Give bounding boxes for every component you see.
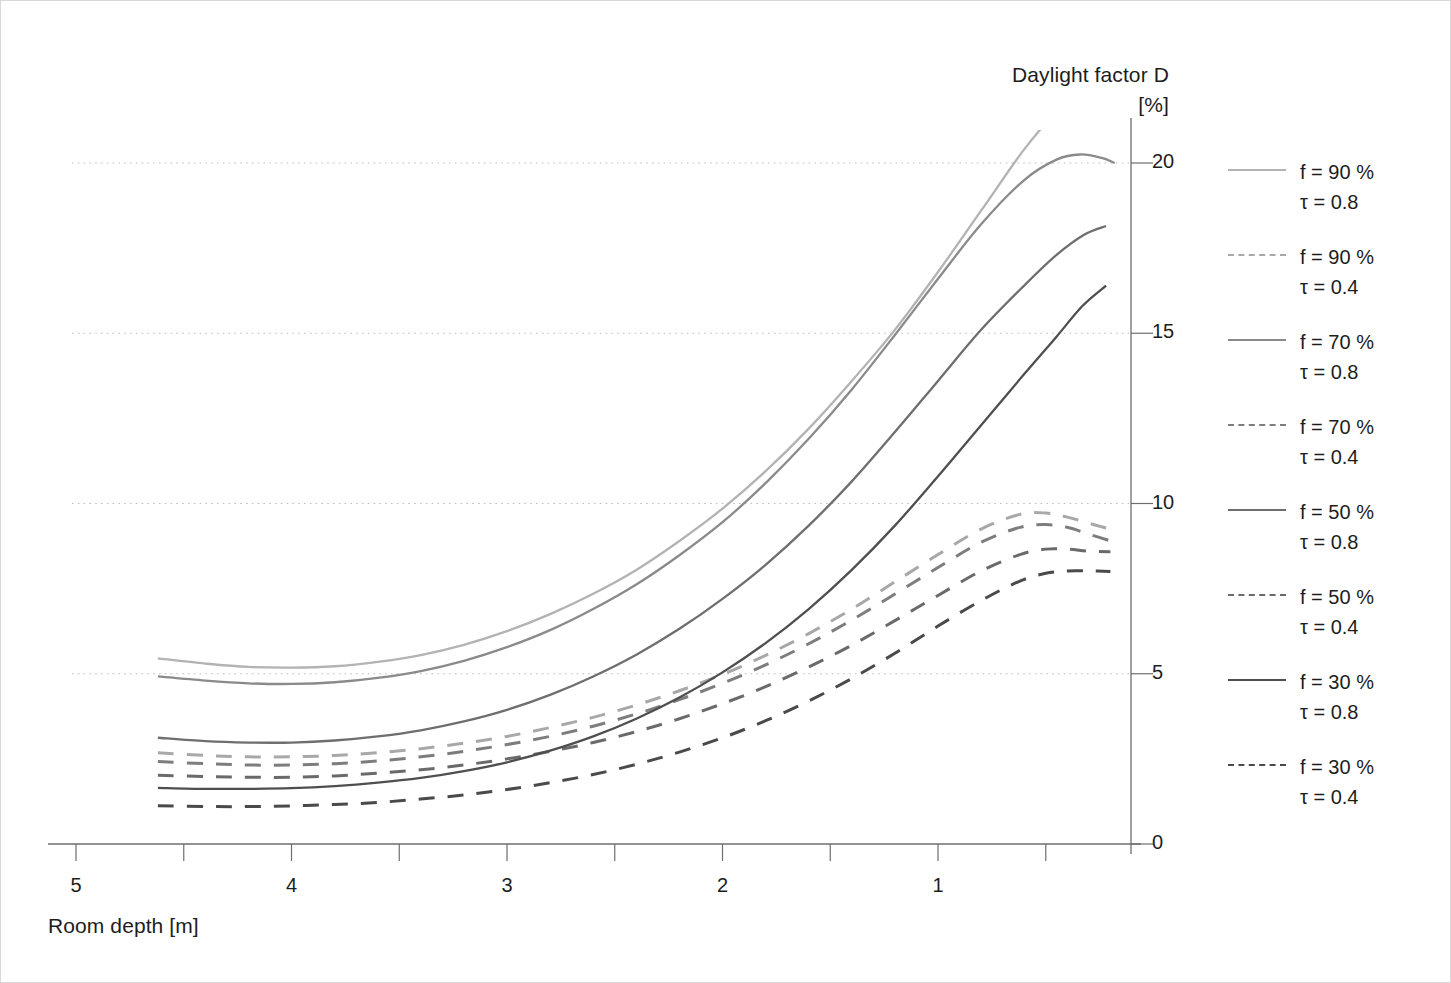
y-axis-title: Daylight factor D [%] bbox=[1012, 60, 1169, 120]
legend-label-f-1: f = 90 % bbox=[1300, 246, 1374, 268]
legend-label-f-0: f = 90 % bbox=[1300, 161, 1374, 183]
legend-label-tau-5: τ = 0.4 bbox=[1300, 612, 1374, 642]
legend-label-f-2: f = 70 % bbox=[1300, 331, 1374, 353]
legend-label-f-5: f = 50 % bbox=[1300, 586, 1374, 608]
chart-page: Daylight factor D [%] Room depth [m] 201… bbox=[0, 0, 1451, 983]
legend-label-tau-3: τ = 0.4 bbox=[1300, 442, 1374, 472]
legend-label-tau-6: τ = 0.8 bbox=[1300, 697, 1374, 727]
x-axis-title: Room depth [m] bbox=[48, 914, 199, 938]
legend-label-1: f = 90 %τ = 0.4 bbox=[1300, 242, 1374, 302]
curve-f30-tau04 bbox=[158, 571, 1111, 807]
legend-label-tau-2: τ = 0.8 bbox=[1300, 357, 1374, 387]
x-tick-label-3: 3 bbox=[487, 874, 527, 897]
legend-item-2[interactable]: f = 70 %τ = 0.8 bbox=[1228, 330, 1433, 415]
legend-label-f-7: f = 30 % bbox=[1300, 756, 1374, 778]
x-tick-label-2: 2 bbox=[703, 874, 743, 897]
legend-label-7: f = 30 %τ = 0.4 bbox=[1300, 752, 1374, 812]
legend-item-1[interactable]: f = 90 %τ = 0.4 bbox=[1228, 245, 1433, 330]
legend-label-2: f = 70 %τ = 0.8 bbox=[1300, 327, 1374, 387]
y-tick-label-5: 5 bbox=[1152, 661, 1163, 684]
y-axis-title-text: Daylight factor D bbox=[1012, 63, 1169, 86]
legend-swatch-solid-icon bbox=[1228, 169, 1286, 171]
y-tick-label-20: 20 bbox=[1152, 150, 1174, 173]
curve-f50-tau08 bbox=[158, 226, 1106, 743]
y-tick-label-15: 15 bbox=[1152, 320, 1174, 343]
legend-item-7[interactable]: f = 30 %τ = 0.4 bbox=[1228, 755, 1433, 840]
legend-label-tau-4: τ = 0.8 bbox=[1300, 527, 1374, 557]
data-curves bbox=[158, 85, 1115, 807]
legend-swatch-dashed-icon bbox=[1228, 424, 1286, 426]
legend-label-tau-0: τ = 0.8 bbox=[1300, 187, 1374, 217]
y-tick-label-10: 10 bbox=[1152, 491, 1174, 514]
legend-label-f-3: f = 70 % bbox=[1300, 416, 1374, 438]
legend-swatch-dashed-icon bbox=[1228, 764, 1286, 766]
y-tick-label-0: 0 bbox=[1152, 831, 1163, 854]
legend-label-tau-7: τ = 0.4 bbox=[1300, 782, 1374, 812]
legend-item-0[interactable]: f = 90 %τ = 0.8 bbox=[1228, 160, 1433, 245]
legend-swatch-dashed-icon bbox=[1228, 254, 1286, 256]
legend-label-3: f = 70 %τ = 0.4 bbox=[1300, 412, 1374, 472]
x-tick-label-5: 5 bbox=[56, 874, 96, 897]
legend-swatch-solid-icon bbox=[1228, 509, 1286, 511]
legend-label-tau-1: τ = 0.4 bbox=[1300, 272, 1374, 302]
x-tick-label-4: 4 bbox=[272, 874, 312, 897]
axes bbox=[48, 118, 1153, 861]
gridlines bbox=[72, 163, 1131, 674]
legend-label-4: f = 50 %τ = 0.8 bbox=[1300, 497, 1374, 557]
legend-item-4[interactable]: f = 50 %τ = 0.8 bbox=[1228, 500, 1433, 585]
legend-label-6: f = 30 %τ = 0.8 bbox=[1300, 667, 1374, 727]
legend-item-6[interactable]: f = 30 %τ = 0.8 bbox=[1228, 670, 1433, 755]
legend-swatch-dashed-icon bbox=[1228, 594, 1286, 596]
legend-item-5[interactable]: f = 50 %τ = 0.4 bbox=[1228, 585, 1433, 670]
legend-label-0: f = 90 %τ = 0.8 bbox=[1300, 157, 1374, 217]
legend-swatch-solid-icon bbox=[1228, 339, 1286, 341]
legend-label-5: f = 50 %τ = 0.4 bbox=[1300, 582, 1374, 642]
legend-swatch-solid-icon bbox=[1228, 679, 1286, 681]
curve-f90-tau08 bbox=[158, 85, 1093, 668]
y-axis-unit: [%] bbox=[1012, 90, 1169, 120]
x-tick-label-1: 1 bbox=[918, 874, 958, 897]
legend-item-3[interactable]: f = 70 %τ = 0.4 bbox=[1228, 415, 1433, 500]
curve-f70-tau04 bbox=[158, 525, 1111, 766]
legend-label-f-4: f = 50 % bbox=[1300, 501, 1374, 523]
legend-label-f-6: f = 30 % bbox=[1300, 671, 1374, 693]
chart-legend: f = 90 %τ = 0.8f = 90 %τ = 0.4f = 70 %τ … bbox=[1228, 160, 1433, 840]
